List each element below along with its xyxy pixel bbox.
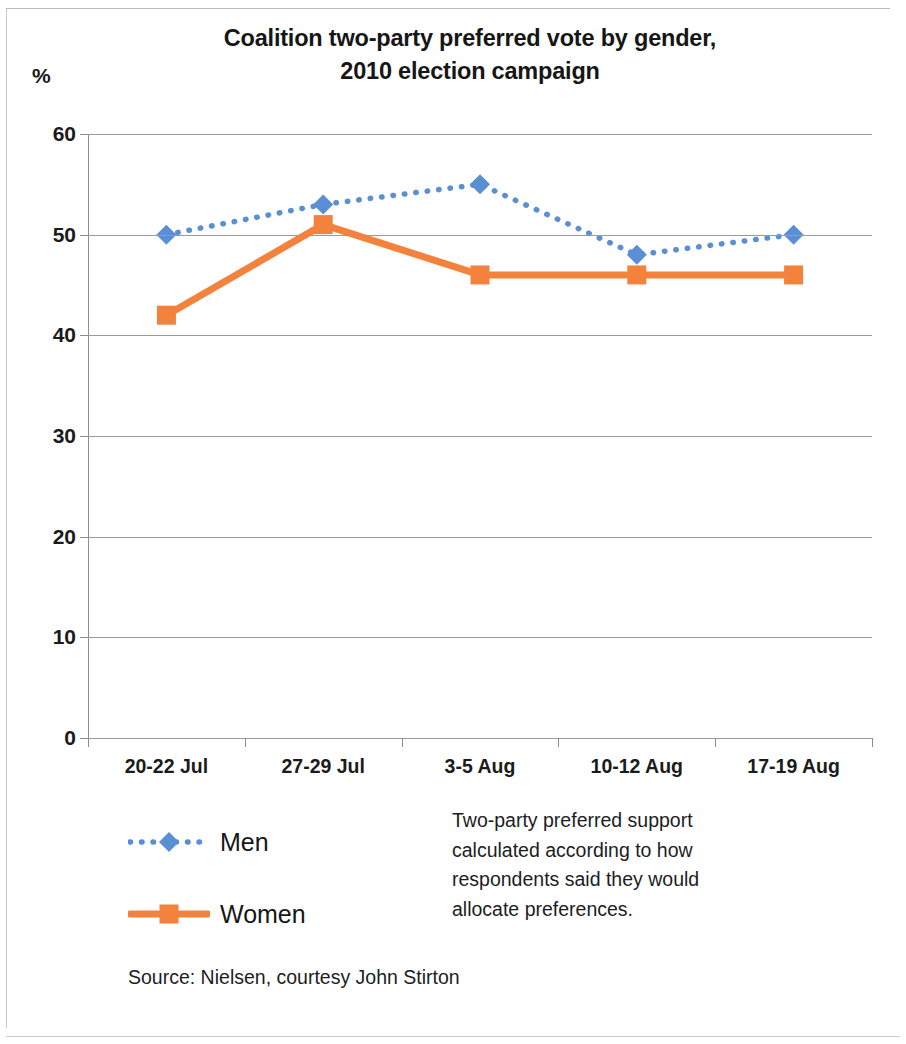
chart-figure: Coalition two-party preferred vote by ge… [0,0,906,1044]
y-axis-tick-label: 10 [24,625,76,649]
annotation-line: calculated according to how [452,836,782,866]
y-axis-tick [80,134,88,135]
data-point-marker [159,832,179,852]
y-axis-tick-label: 40 [24,323,76,347]
data-point-marker [471,265,490,284]
y-axis-unit-label: % [32,64,51,88]
x-axis-tick-label: 3-5 Aug [445,755,516,778]
data-point-marker [627,245,647,265]
y-axis-tick [80,738,88,739]
x-axis-tick [88,738,89,747]
series-men [156,174,803,264]
data-point-marker [157,306,176,325]
gridline [88,537,872,538]
y-axis-tick-label: 0 [24,726,76,750]
data-point-marker [160,905,179,924]
gridline [88,436,872,437]
annotation-line: respondents said they would [452,865,782,895]
x-axis-tick [245,738,246,747]
figure-border-bottom [6,1036,900,1037]
y-axis-tick-label: 30 [24,424,76,448]
x-axis-tick-label: 17-19 Aug [747,755,839,778]
chart-title-line-1: Coalition two-party preferred vote by ge… [120,22,820,55]
y-axis-tick-labels: 6050403020100 [14,134,76,738]
x-axis-tick [558,738,559,747]
chart-annotation: Two-party preferred supportcalculated ac… [452,806,782,925]
y-axis-tick [80,537,88,538]
data-point-marker [313,194,333,214]
y-axis-tick [80,235,88,236]
figure-border-left [6,8,7,1028]
data-point-marker [314,215,333,234]
gridline [88,335,872,336]
data-point-marker [627,265,646,284]
y-axis-tick [80,637,88,638]
x-axis-tick [402,738,403,747]
legend-label: Women [210,900,306,929]
figure-border-top [6,8,890,9]
plot-area [88,134,872,738]
chart-legend: MenWomen [128,806,428,950]
chart-title: Coalition two-party preferred vote by ge… [120,22,820,89]
gridline [88,738,872,739]
gridline [88,637,872,638]
legend-key-icon [128,829,210,855]
x-axis-tick [872,738,873,747]
legend-key-icon [128,901,210,927]
y-axis-tick [80,335,88,336]
x-axis-tick-label: 27-29 Jul [281,755,364,778]
y-axis-tick-label: 60 [24,122,76,146]
chart-source-note: Source: Nielsen, courtesy John Stirton [128,966,460,989]
data-point-marker [784,265,803,284]
y-axis-tick-label: 20 [24,525,76,549]
x-axis-tick [715,738,716,747]
y-axis-tick [80,436,88,437]
legend-label: Men [210,828,269,857]
x-axis-tick-label: 10-12 Aug [591,755,683,778]
x-axis-tick-labels: 20-22 Jul27-29 Jul3-5 Aug10-12 Aug17-19 … [88,755,872,789]
series-women [157,215,803,325]
legend-item-women[interactable]: Women [128,878,428,950]
chart-title-line-2: 2010 election campaign [120,55,820,88]
annotation-line: Two-party preferred support [452,806,782,836]
y-axis-tick-label: 50 [24,223,76,247]
series-line [166,184,793,254]
x-axis-tick-label: 20-22 Jul [125,755,208,778]
data-point-marker [470,174,490,194]
gridline [88,235,872,236]
gridline [88,134,872,135]
legend-item-men[interactable]: Men [128,806,428,878]
annotation-line: allocate preferences. [452,895,782,925]
